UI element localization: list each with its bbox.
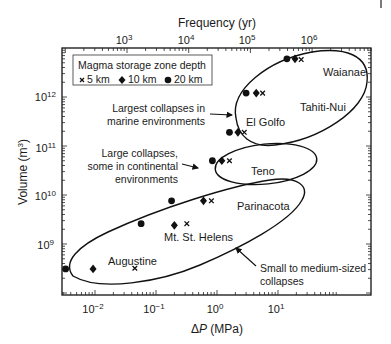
region-largest-collapses [235,51,367,146]
x-axis-title: ΔP (MPa) [191,322,243,336]
legend-label-20km: 20 km [174,73,203,85]
circle-marker-icon [226,129,233,136]
legend-label-10km: 10 km [128,73,157,85]
legend-label-5km: 5 km [87,73,110,85]
legend-circle-marker-icon [165,77,172,84]
label-mt-st-helens: Mt. St. Helens [164,231,234,243]
top-tick-label: 105 [239,33,256,46]
annotation-large-line2: some in continental [88,160,178,172]
circle-marker-icon [62,266,69,273]
annotation-small-line2: collapses [260,275,304,287]
diamond-marker-icon [218,156,225,165]
diamond-marker-icon [90,265,97,274]
arrow-largest-icon [210,114,232,115]
x-marker-icon [299,57,304,62]
x-marker-icon [242,130,247,135]
x-marker-icon [227,158,232,163]
y-tick-label: 1012 [35,90,57,103]
left-tick-labels: 1012 1011 1010 109 [35,90,57,251]
circle-marker-icon [209,157,216,164]
top-axis-title: Frequency (yr) [178,16,256,30]
label-tahiti-nui: Tahiti-Nui [300,101,346,113]
legend: Magma storage zone depth 5 km 10 km 20 k… [73,55,212,85]
y-tick-label: 109 [37,238,54,251]
annotation-large-line1: Large collapses, [102,147,178,159]
circle-marker-icon [138,220,145,227]
x-marker-icon [185,221,190,226]
bottom-tick-labels: 10−2 10−1 100 101 [82,302,285,315]
annotation-largest-line1: Largest collapses in [112,102,205,114]
label-waianae: Waianae [323,66,366,78]
x-tick-label: 101 [268,302,285,315]
annotation-small-line1: Small to medium-sized [260,262,366,274]
x-tick-label: 10−1 [143,302,165,315]
y-tick-label: 1011 [35,141,56,154]
top-tick-label: 104 [178,33,195,46]
top-tick-label: 106 [301,33,318,46]
annotation-large-line3: environments [115,173,178,185]
top-tick-labels: 103 104 105 106 [116,33,318,46]
circle-marker-icon [284,55,291,62]
annotation-largest-line2: marine environments [107,115,205,127]
label-teno: Teno [251,165,275,177]
diamond-marker-icon [171,221,178,230]
label-el-golfo: El Golfo [246,116,285,128]
arrow-small-icon [236,248,256,266]
y-tick-label: 1010 [35,189,57,202]
top-tick-label: 103 [116,33,133,46]
region-large-collapses [213,139,319,189]
x-marker-icon [260,91,265,96]
x-marker-icon [209,199,214,204]
diamond-marker-icon [234,128,241,137]
label-augustine: Augustine [108,255,157,267]
x-tick-label: 10−2 [82,302,104,315]
circle-marker-icon [243,90,250,97]
x-tick-label: 100 [207,302,224,315]
diamond-marker-icon [253,89,260,98]
volcano-collapse-chart: Frequency (yr) 103 104 105 106 1012 1011… [0,0,391,344]
y-axis-title: Volume (m3) [16,139,30,205]
diamond-marker-icon [200,197,207,206]
label-parinacota: Parinacota [237,200,290,212]
circle-marker-icon [168,197,175,204]
arrow-large-icon [182,164,198,168]
legend-title: Magma storage zone depth [78,59,206,71]
